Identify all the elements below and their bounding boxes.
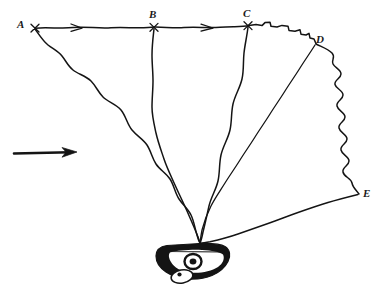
baseline-path	[35, 26, 249, 29]
ray-e	[200, 195, 358, 244]
coastline-c-to-d	[249, 22, 316, 43]
coastline-d-to-e	[316, 44, 359, 194]
label-c: C	[243, 8, 250, 19]
label-d: D	[316, 34, 324, 45]
label-b: B	[149, 9, 156, 20]
ray-b	[152, 29, 200, 243]
sketch-figure: A B C D E	[0, 0, 383, 292]
direction-arrow-icon	[14, 148, 77, 158]
label-e: E	[363, 188, 370, 199]
sketch-canvas	[0, 0, 383, 292]
ray-a	[35, 29, 200, 243]
label-a: A	[17, 19, 24, 30]
circle-icon	[185, 254, 202, 269]
ray-c	[200, 27, 248, 243]
